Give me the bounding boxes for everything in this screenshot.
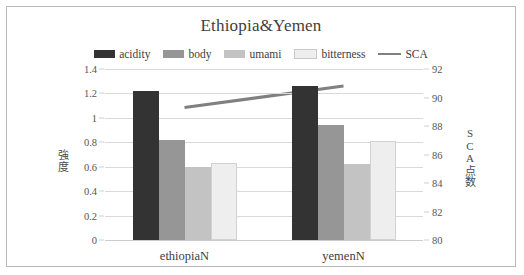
bar-body-yemenN[interactable] [318,125,344,240]
y-tick-label-primary: 0.4 [84,186,97,197]
y-axis-label-secondary: SCA点数 [462,127,478,188]
chart-legend: aciditybodyumamibitternessSCA [7,48,515,60]
y-tick-mark-secondary [424,154,429,155]
legend-item-body[interactable]: body [163,48,211,60]
y-tick-label-primary: 1.2 [84,88,97,99]
y-tick-label-primary: 0 [92,235,97,246]
legend-label: bitterness [321,48,365,60]
legend-swatch-icon [224,50,245,58]
y-tick-mark-primary [99,166,104,167]
y-tick-label-primary: 0.6 [84,161,97,172]
y-axis-label-primary: 強度 [55,149,71,173]
y-tick-label-secondary: 82 [432,206,443,217]
legend-swatch-icon [294,49,317,59]
y-tick-label-secondary: 88 [432,121,443,132]
plot-area: 1.41.210.80.60.40.2092908886848280ethiop… [105,69,423,240]
y-tick-label-secondary: 92 [432,64,443,75]
bar-body-ethiopiaN[interactable] [159,140,185,240]
y-tick-mark-secondary [424,97,429,98]
y-tick-mark-primary [99,142,104,143]
y-tick-mark-secondary [424,69,429,70]
y-tick-mark-secondary [424,211,429,212]
y-tick-label-secondary: 86 [432,149,443,160]
bar-group-bars [264,69,423,240]
legend-item-bitterness[interactable]: bitterness [294,48,365,60]
y-tick-mark-primary [99,191,104,192]
legend-swatch-icon [94,50,115,58]
y-tick-mark-secondary [424,183,429,184]
y-tick-label-primary: 0.2 [84,210,97,221]
bar-bitterness-ethiopiaN[interactable] [211,163,237,240]
legend-label: umami [249,48,281,60]
y-tick-label-secondary: 90 [432,92,443,103]
bar-group-yemenN: yemenN [264,69,423,240]
x-axis-category-label: ethiopiaN [105,249,264,264]
y-tick-mark-primary [99,240,104,241]
legend-swatch-icon [163,50,184,58]
chart-frame: Ethiopia&Yemen aciditybodyumamibitternes… [6,6,516,267]
bar-umami-yemenN[interactable] [344,164,370,240]
y-tick-label-primary: 1.4 [84,64,97,75]
legend-item-sca[interactable]: SCA [378,48,427,60]
y-tick-label-secondary: 80 [432,235,443,246]
x-axis-category-label: yemenN [264,249,423,264]
legend-label: SCA [405,48,427,60]
y-tick-mark-primary [99,215,104,216]
y-tick-label-secondary: 84 [432,178,443,189]
bar-group-bars [105,69,264,240]
bar-umami-ethiopiaN[interactable] [185,167,211,240]
legend-item-umami[interactable]: umami [224,48,281,60]
legend-label: acidity [119,48,150,60]
y-tick-label-primary: 1 [92,112,97,123]
chart-title: Ethiopia&Yemen [7,16,515,36]
bar-bitterness-yemenN[interactable] [370,141,396,240]
legend-item-acidity[interactable]: acidity [94,48,150,60]
legend-line-marker-icon [378,53,401,55]
y-tick-mark-secondary [424,240,429,241]
bar-group-ethiopiaN: ethiopiaN [105,69,264,240]
gridline [105,240,423,241]
y-tick-mark-primary [99,117,104,118]
y-tick-mark-secondary [424,126,429,127]
bar-acidity-ethiopiaN[interactable] [133,91,159,240]
y-tick-mark-primary [99,93,104,94]
legend-label: body [188,48,211,60]
bar-acidity-yemenN[interactable] [292,86,318,240]
y-tick-mark-primary [99,69,104,70]
y-tick-label-primary: 0.8 [84,137,97,148]
